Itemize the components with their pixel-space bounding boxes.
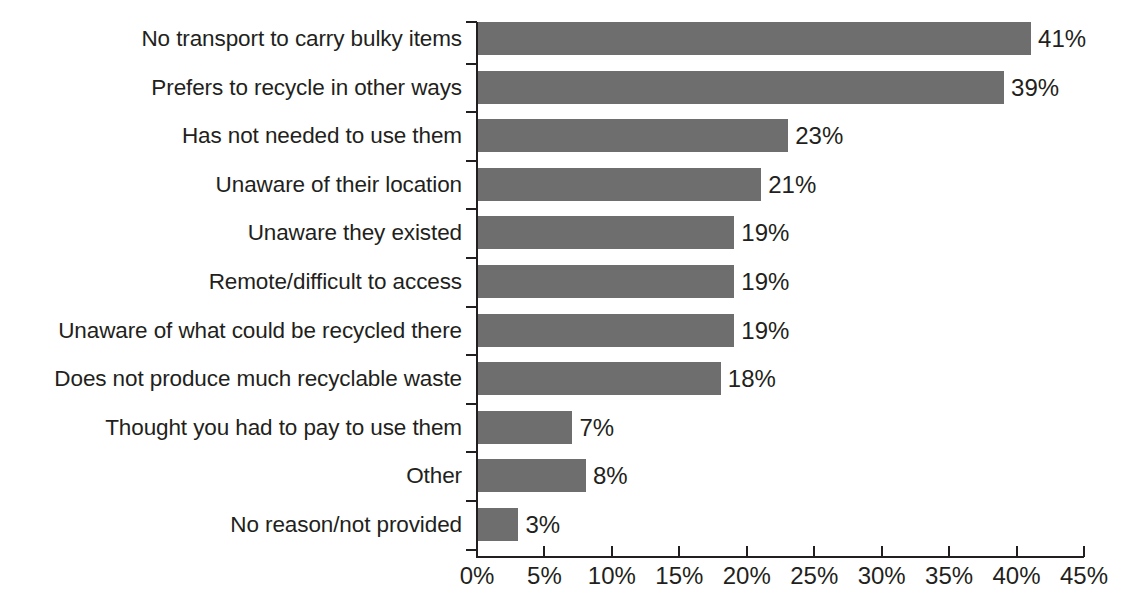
bar-value-label: 3% <box>525 508 560 541</box>
category-axis-tick <box>466 257 477 259</box>
bar-chart: 0%5%10%15%20%25%30%35%40%45% No transpor… <box>0 0 1122 607</box>
category-axis-line <box>476 556 1084 558</box>
bar <box>478 71 1004 104</box>
bar-value-label: 41% <box>1038 22 1086 55</box>
bar-value-label: 19% <box>741 265 789 298</box>
bar <box>478 265 734 298</box>
category-label: Thought you had to pay to use them <box>0 411 462 444</box>
bar <box>478 362 721 395</box>
bar-value-label: 7% <box>579 411 614 444</box>
category-label: Remote/difficult to access <box>0 265 462 298</box>
bar <box>478 119 788 152</box>
plot-area: 0%5%10%15%20%25%30%35%40%45% No transpor… <box>0 0 1122 607</box>
value-axis-tick <box>543 546 545 557</box>
category-label: Prefers to recycle in other ways <box>0 71 462 104</box>
bar <box>478 459 586 492</box>
bar-row: No transport to carry bulky items41% <box>0 22 1122 55</box>
category-label: Unaware of their location <box>0 168 462 201</box>
category-label: No reason/not provided <box>0 508 462 541</box>
bar-value-label: 21% <box>768 168 816 201</box>
category-axis-tick <box>466 208 477 210</box>
category-axis-tick <box>466 306 477 308</box>
category-label: Other <box>0 459 462 492</box>
category-axis-tick <box>466 500 477 502</box>
category-label: Has not needed to use them <box>0 119 462 152</box>
value-axis-tick <box>1016 546 1018 557</box>
bar-value-label: 18% <box>728 362 776 395</box>
bar-row: Does not produce much recyclable waste18… <box>0 362 1122 395</box>
category-axis-tick <box>466 354 477 356</box>
value-axis-tick <box>1083 546 1085 557</box>
category-axis-tick <box>466 63 477 65</box>
value-axis-tick <box>948 546 950 557</box>
bar-row: Other8% <box>0 459 1122 492</box>
category-label: Unaware of what could be recycled there <box>0 314 462 347</box>
bar-value-label: 23% <box>795 119 843 152</box>
value-axis-tick <box>813 546 815 557</box>
bar-value-label: 19% <box>741 314 789 347</box>
bar-row: Unaware of their location21% <box>0 168 1122 201</box>
value-axis-tick <box>881 546 883 557</box>
value-axis-tick <box>476 546 478 557</box>
bar-row: No reason/not provided3% <box>0 508 1122 541</box>
category-label: Unaware they existed <box>0 216 462 249</box>
category-axis-tick <box>466 451 477 453</box>
bar-row: Prefers to recycle in other ways39% <box>0 71 1122 104</box>
bar <box>478 411 572 444</box>
value-axis-tick-label: 45% <box>1039 562 1122 590</box>
bar-value-label: 8% <box>593 459 628 492</box>
bar-value-label: 39% <box>1011 71 1059 104</box>
category-label: Does not produce much recyclable waste <box>0 362 462 395</box>
bar-value-label: 19% <box>741 216 789 249</box>
bar-row: Remote/difficult to access19% <box>0 265 1122 298</box>
bar-row: Unaware of what could be recycled there1… <box>0 314 1122 347</box>
category-label: No transport to carry bulky items <box>0 22 462 55</box>
value-axis-tick <box>611 546 613 557</box>
value-axis-tick <box>678 546 680 557</box>
bar <box>478 216 734 249</box>
value-axis-tick <box>746 546 748 557</box>
bar <box>478 168 761 201</box>
bar-row: Has not needed to use them23% <box>0 119 1122 152</box>
bar-row: Unaware they existed19% <box>0 216 1122 249</box>
bar <box>478 508 518 541</box>
category-axis-tick <box>466 403 477 405</box>
category-axis-tick <box>466 160 477 162</box>
category-axis-tick <box>466 111 477 113</box>
bar <box>478 314 734 347</box>
bar-row: Thought you had to pay to use them7% <box>0 411 1122 444</box>
bar <box>478 22 1031 55</box>
